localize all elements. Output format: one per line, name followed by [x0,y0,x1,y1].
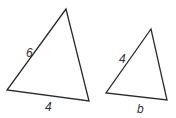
similar-triangles-diagram: 6 4 4 b [0,0,176,118]
small-triangle-bottom-side-label: b [137,102,144,116]
small-triangle-left-side-label: 4 [119,52,126,66]
small-triangle [106,29,167,100]
diagram-svg: 6 4 4 b [0,0,176,118]
large-triangle [7,9,89,101]
large-triangle-bottom-side-label: 4 [45,100,52,114]
large-triangle-left-side-label: 6 [26,46,33,60]
